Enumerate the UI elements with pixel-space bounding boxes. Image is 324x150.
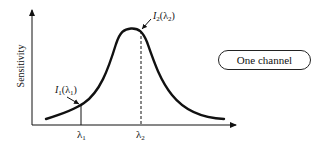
i2-annotation: I2(λ2)	[152, 10, 175, 23]
x-tick-lambda2: λ2	[136, 128, 145, 142]
channel-label-badge: One channel	[218, 50, 311, 70]
i2-leader-arrow	[142, 19, 151, 29]
i1-leader-arrow	[67, 97, 79, 104]
y-axis-label: Sensitivity	[15, 45, 26, 88]
channel-label-text: One channel	[237, 54, 292, 66]
i1-annotation: I1(λ1)	[54, 84, 77, 97]
sensitivity-curve	[46, 28, 224, 119]
x-tick-lambda1: λ1	[77, 128, 86, 142]
sensitivity-diagram: Sensitivity λ1 λ2 I1(λ1) I2(λ2)	[0, 0, 324, 150]
